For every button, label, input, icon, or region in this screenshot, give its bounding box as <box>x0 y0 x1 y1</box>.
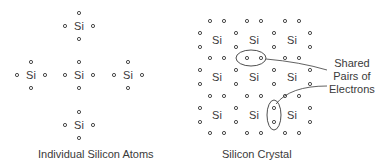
electron-dot <box>208 56 211 59</box>
electron-dot <box>15 73 18 76</box>
electron-dot <box>198 82 201 85</box>
electron-dot <box>234 45 237 48</box>
electron-dot <box>283 131 286 134</box>
electron-dot <box>222 131 225 134</box>
electron-dot <box>208 131 211 134</box>
electron-dot <box>308 31 311 34</box>
crystal-atom-label: Si <box>212 34 222 46</box>
electron-dot <box>272 68 275 71</box>
electron-dot <box>234 82 237 85</box>
electron-dot <box>63 123 66 126</box>
electron-dot <box>234 31 237 34</box>
electron-dot <box>259 94 262 97</box>
electron-dot <box>308 45 311 48</box>
crystal-atom-label: Si <box>287 109 297 121</box>
electron-dot <box>234 106 237 109</box>
electron-dot <box>259 56 262 59</box>
electron-dot <box>297 131 300 134</box>
electron-dot <box>222 56 225 59</box>
silicon-atom-label: Si <box>74 69 84 81</box>
electron-dot <box>272 82 275 85</box>
crystal-atom-label: Si <box>212 71 222 83</box>
crystal-atom-label: Si <box>287 71 297 83</box>
electron-dot <box>112 73 115 76</box>
electron-dot <box>308 120 311 123</box>
electron-dot <box>245 131 248 134</box>
electron-dot <box>91 73 94 76</box>
electron-dot <box>283 56 286 59</box>
electron-dot <box>77 60 80 63</box>
electron-dot <box>198 45 201 48</box>
electron-dot <box>198 31 201 34</box>
silicon-atom-label: Si <box>26 69 36 81</box>
electron-dot <box>198 106 201 109</box>
electron-dot <box>283 19 286 22</box>
electron-dot <box>63 24 66 27</box>
caption-individual-atoms: Individual Silicon Atoms <box>38 148 154 160</box>
electron-dot <box>126 86 129 89</box>
shared-pairs-callout: Shared Pairs of Electrons <box>329 57 375 96</box>
shared-pair-ellipse <box>236 50 266 66</box>
crystal-atom-label: Si <box>287 34 297 46</box>
electron-dot <box>297 56 300 59</box>
electron-dot <box>222 19 225 22</box>
electron-dot <box>234 120 237 123</box>
electron-dot <box>198 120 201 123</box>
electron-dot <box>91 24 94 27</box>
electron-dot <box>245 94 248 97</box>
electron-dot <box>272 120 275 123</box>
callout-line-3: Electrons <box>329 83 375 96</box>
callout-line-1: Shared <box>329 57 375 70</box>
electron-dot <box>208 19 211 22</box>
electron-dot <box>77 86 80 89</box>
silicon-atom-label: Si <box>74 20 84 32</box>
electron-dot <box>272 31 275 34</box>
electron-dot <box>140 73 143 76</box>
electron-dot <box>126 60 129 63</box>
crystal-atom-label: Si <box>249 34 259 46</box>
electron-dot <box>308 68 311 71</box>
electron-dot <box>259 131 262 134</box>
electron-dot <box>198 68 201 71</box>
diagram-canvas <box>0 0 380 166</box>
silicon-atom-label: Si <box>123 69 133 81</box>
caption-silicon-crystal: Silicon Crystal <box>222 148 292 160</box>
electron-dot <box>63 73 66 76</box>
crystal-atom-label: Si <box>249 71 259 83</box>
electron-dot <box>234 68 237 71</box>
electron-dot <box>308 106 311 109</box>
shared-pair-ellipse <box>267 100 281 130</box>
electron-dot <box>77 136 80 139</box>
crystal-atom-label: Si <box>212 109 222 121</box>
electron-dot <box>245 19 248 22</box>
electron-dot <box>308 82 311 85</box>
electron-dot <box>29 86 32 89</box>
silicon-atom-label: Si <box>74 119 84 131</box>
electron-dot <box>77 11 80 14</box>
electron-dot <box>208 94 211 97</box>
electron-dot <box>272 45 275 48</box>
electron-dot <box>77 110 80 113</box>
electron-dot <box>297 19 300 22</box>
callout-line-2: Pairs of <box>329 70 375 83</box>
electron-dot <box>272 106 275 109</box>
crystal-atom-label: Si <box>249 109 259 121</box>
electron-dot <box>43 73 46 76</box>
electron-dot <box>259 19 262 22</box>
electron-dot <box>222 94 225 97</box>
electron-dot <box>245 56 248 59</box>
electron-dot <box>77 37 80 40</box>
electron-dot <box>91 123 94 126</box>
electron-dot <box>297 94 300 97</box>
electron-dot <box>29 60 32 63</box>
